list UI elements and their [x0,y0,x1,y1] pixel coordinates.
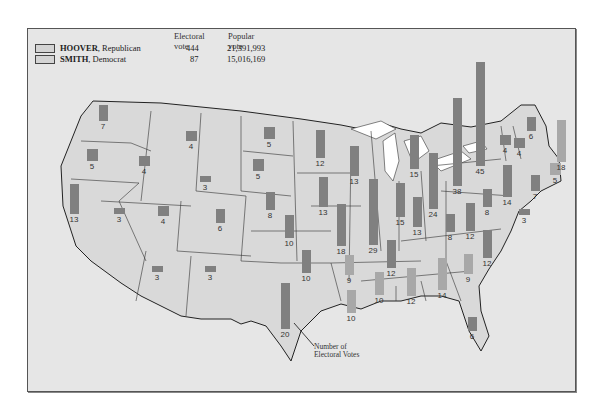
bar-ia [319,177,328,207]
label-ny: 45 [470,167,490,176]
label-wv: 8 [440,233,460,242]
label-me: 6 [521,132,541,141]
bar-vt [500,135,511,144]
bar-mn [316,130,325,158]
label-wy: 3 [195,183,215,192]
bar-in [396,183,405,218]
bar-ut [158,206,169,215]
bar-wy [200,176,211,183]
label-ne: 8 [260,211,280,220]
label-ct: 7 [525,192,545,201]
label-sc: 9 [458,275,478,284]
legend-smith-popular: 15,016,169 [227,54,265,64]
label-ri: 5 [545,176,565,185]
annotation-label: Number of Electoral Votes [314,343,359,359]
label-mt: 4 [181,142,201,151]
legend-smith-electoral: 87 [190,54,199,64]
legend-hoover-electoral: 444 [186,43,199,53]
bar-pa [453,98,462,185]
label-co: 6 [210,224,230,233]
bar-co [216,209,225,223]
label-az: 3 [147,273,167,282]
bar-tn [387,240,396,268]
bar-or [87,149,98,161]
annotation-line-2: Electoral Votes [314,351,359,359]
bar-ms [375,272,384,295]
bar-la [347,290,356,313]
label-id: 4 [134,167,154,176]
bar-ok [302,250,311,273]
bar-ga [438,258,447,290]
bar-nm [205,266,216,273]
bar-tx [281,283,290,329]
label-fl: 6 [462,332,482,341]
bar-nv [114,208,125,215]
bar-ny [476,62,485,166]
legend-swatch-hoover [35,44,55,53]
legend-hoover-popular: 21,391,993 [227,43,265,53]
label-wi: 13 [344,177,364,186]
label-de: 3 [514,216,534,225]
label-ma: 18 [551,163,571,172]
legend-smith-name: SMITH, Democrat [60,54,126,64]
bar-nd [264,127,275,139]
label-ut: 4 [153,217,173,226]
label-md: 8 [477,208,497,217]
label-ks: 10 [279,239,299,248]
label-la: 10 [341,314,361,323]
bar-sc [464,254,473,275]
label-nj: 14 [497,198,517,207]
label-ok: 10 [296,274,316,283]
bar-de [519,209,530,216]
label-tx: 20 [275,330,295,339]
bar-md [483,189,492,207]
label-al: 12 [401,297,421,306]
label-oh: 24 [423,210,443,219]
label-sd: 5 [248,172,268,181]
label-or: 5 [82,162,102,171]
bar-me [527,117,536,131]
label-ia: 13 [313,208,333,217]
label-mn: 12 [310,159,330,168]
label-nm: 3 [200,273,220,282]
bar-sd [253,159,264,171]
label-nv: 3 [109,215,129,224]
label-nc: 12 [477,259,497,268]
bar-wi [350,146,359,176]
bar-wv [446,214,455,232]
legend-swatch-smith [35,55,55,64]
bar-fl [468,317,477,331]
label-tn: 12 [381,269,401,278]
map-frame: Electoral vote Popular vote HOOVER, Repu… [27,28,576,392]
label-ar: 9 [339,276,359,285]
label-ky: 13 [407,228,427,237]
label-pa: 38 [447,187,467,196]
bar-mo [337,204,346,245]
bar-ks [285,215,294,238]
legend-hoover-name: HOOVER, Republican [60,43,141,53]
bar-ne [266,192,275,210]
bar-nc [483,230,492,258]
label-ms: 10 [369,296,389,305]
bar-va [466,203,475,231]
label-il: 29 [363,246,383,255]
bar-oh [429,153,438,208]
label-ga: 14 [432,291,452,300]
bar-al [407,268,416,296]
bar-ma [557,120,566,161]
bar-mi [410,135,419,170]
bar-ky [413,197,422,227]
label-va: 12 [460,232,480,241]
label-nh: 4 [509,149,529,158]
label-mi: 15 [404,170,424,179]
label-ca: 13 [64,215,84,224]
label-in: 15 [390,218,410,227]
bar-az [152,266,163,273]
bar-mt [186,131,197,140]
bar-id [139,156,150,165]
bar-ca [70,184,79,214]
bar-nj [503,165,512,197]
bar-wa [99,105,108,121]
bar-il [369,179,378,246]
label-wa: 7 [93,122,113,131]
